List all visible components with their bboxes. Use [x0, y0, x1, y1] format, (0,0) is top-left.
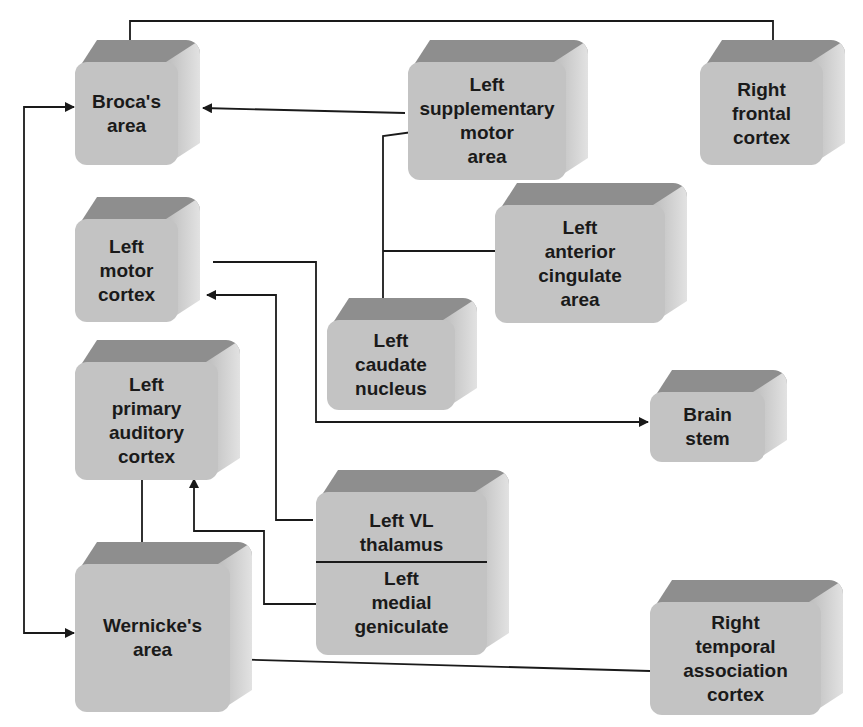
node-label-line: area — [107, 114, 146, 138]
node-label-line: area — [133, 638, 172, 662]
node-label-line: Right — [711, 611, 760, 635]
node-label-line: cortex — [733, 126, 790, 150]
node-label-line: Wernicke's — [103, 614, 202, 638]
node-label-line: Left — [384, 567, 419, 591]
node-label-line: cortex — [707, 683, 764, 707]
node-label-line: Left — [129, 373, 164, 397]
node-left-anterior-cingulate: Leftanteriorcingulatearea — [495, 183, 687, 323]
node-label-line: Left — [374, 329, 409, 353]
node-label-line: area — [467, 145, 506, 169]
node-left-primary-auditory: Leftprimaryauditorycortex — [75, 340, 240, 480]
node-divider — [316, 561, 487, 563]
node-label-line: frontal — [732, 102, 791, 126]
node-label-line: association — [683, 659, 788, 683]
node-label-line: medial — [371, 591, 431, 615]
node-label-line: cortex — [118, 445, 175, 469]
node-label-line: thalamus — [360, 533, 443, 557]
node-right-temporal-association: Righttemporalassociationcortex — [650, 580, 843, 715]
node-label-line: anterior — [545, 240, 616, 264]
node-wernickes-area: Wernicke'sarea — [75, 542, 252, 712]
node-label-line: nucleus — [355, 377, 427, 401]
node-label-line: Broca's — [92, 90, 161, 114]
node-brocas-area: Broca'sarea — [75, 40, 200, 165]
node-label-line: primary — [112, 397, 182, 421]
node-label-line: cortex — [98, 283, 155, 307]
node-label-line: supplementary — [419, 97, 554, 121]
node-label-line: temporal — [695, 635, 775, 659]
node-label-line: cingulate — [538, 264, 621, 288]
node-left-vl-thalamus-medial-geniculate: Left VLthalamusLeftmedialgeniculate — [316, 470, 509, 655]
node-label-line: stem — [685, 427, 729, 451]
node-label-line: motor — [100, 259, 154, 283]
node-label-line: area — [560, 288, 599, 312]
node-label-line: Brain — [683, 403, 732, 427]
node-label-line: geniculate — [355, 615, 449, 639]
edge-sma-to-broca — [203, 108, 405, 113]
edge-temporal-to-wernicke — [226, 659, 650, 671]
node-label-line: motor — [460, 121, 514, 145]
node-left-motor-cortex: Leftmotorcortex — [75, 197, 200, 322]
brain-language-network-diagram: Broca'sareaLeftsupplementarymotorareaRig… — [0, 0, 863, 727]
node-left-sma: Leftsupplementarymotorarea — [408, 40, 588, 180]
node-right-frontal: Rightfrontalcortex — [700, 40, 845, 165]
node-label-line: Left VL — [369, 509, 433, 533]
node-label-line: Left — [563, 216, 598, 240]
node-left-caudate: Leftcaudatenucleus — [327, 298, 477, 410]
node-label-line: Right — [737, 78, 786, 102]
node-label-line: Left — [109, 235, 144, 259]
node-label-line: caudate — [355, 353, 427, 377]
node-label-line: Left — [470, 73, 505, 97]
node-label-line: auditory — [109, 421, 184, 445]
edge-broca-wernicke — [24, 107, 74, 633]
node-brain-stem: Brainstem — [650, 370, 787, 462]
